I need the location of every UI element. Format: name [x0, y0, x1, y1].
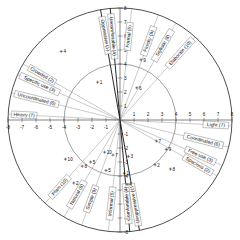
point-marker-label-1: 4: [63, 49, 66, 54]
point-marker-label-8: 8: [173, 167, 176, 172]
point-marker-7: 2: [154, 163, 161, 168]
pole-label-text-light: Light (7): [207, 122, 226, 128]
point-marker-14: 10: [103, 150, 112, 155]
axis-tick-label-v-2: 2: [124, 90, 127, 95]
axis-tick-label-h--5: -5: [48, 125, 53, 130]
axis-tick-label-v-1: 1: [124, 104, 127, 109]
axis-tick-label-h-6: 6: [203, 112, 206, 117]
axis-tick-label-h-2: 2: [147, 112, 150, 117]
semantic-differential-chart: -8-7-6-5-4-3-2-11234567887654321-1-2-3-4…: [0, 0, 240, 240]
point-marker-label-4: 6: [139, 86, 142, 91]
point-marker-label-2: 1: [100, 80, 103, 85]
polar-diagram-canvas: -8-7-6-5-4-3-2-11234567887654321-1-2-3-4…: [0, 0, 240, 240]
point-marker-label-12: 5: [108, 168, 111, 173]
point-marker-8: 8: [169, 167, 176, 172]
point-marker-label-13: 7: [115, 153, 118, 158]
pole-label-plain: Plain (10): [48, 174, 72, 199]
point-marker-11: 3: [127, 154, 134, 159]
pole-label-elaborate: Elaborate (10): [165, 37, 195, 70]
point-marker-3: 9: [140, 58, 147, 63]
point-marker-label-14: 10: [107, 150, 113, 155]
axis-tick-label-h--3: -3: [76, 125, 81, 130]
point-marker-label-3: 9: [143, 58, 146, 63]
point-marker-label-6: 9: [168, 147, 171, 152]
pole-label-light: Light (7): [203, 121, 229, 129]
point-marker-2: 1: [96, 80, 103, 85]
point-marker-17: 10: [64, 157, 73, 162]
pole-label-coordinated: Coordinated (6): [183, 133, 224, 149]
axis-tick-label-v--8: -8: [124, 230, 129, 235]
point-marker-18: 2: [72, 181, 79, 186]
point-marker-5: 7: [155, 139, 162, 144]
axis-tick-label-h--8: -8: [6, 125, 11, 130]
pole-label-informal: Informal (5): [106, 187, 116, 220]
point-marker-label-5: 7: [159, 139, 162, 144]
axis-tick-label-h-3: 3: [161, 112, 164, 117]
point-marker-6: 9: [165, 147, 172, 152]
axis-tick-label-h--7: -7: [20, 125, 25, 130]
axis-tick-label-h-7: 7: [217, 112, 220, 117]
axis-tick-label-h-5: 5: [189, 112, 192, 117]
axis-tick-label-h-4: 4: [175, 112, 178, 117]
axis-tick-label-h--4: -4: [62, 125, 67, 130]
axis-tick-label-v-8: 8: [124, 6, 127, 11]
axis-tick-label-h-1: 1: [133, 112, 136, 117]
point-marker-15: 5: [89, 160, 96, 165]
axis-tick-label-v--1: -1: [124, 132, 129, 137]
point-marker-label-9: 4: [129, 182, 132, 187]
pole-label-text-elaborate: Elaborate (10): [168, 40, 193, 67]
point-marker-1: 4: [60, 49, 67, 54]
point-marker-label-15: 5: [93, 160, 96, 165]
axis-tick-label-h-8: 8: [231, 112, 234, 117]
axis-tick-label-h--1: -1: [104, 125, 109, 130]
pole-label-finicky: Finicky (9): [140, 26, 157, 57]
point-marker-label-17: 10: [68, 157, 74, 162]
axis-tick-label-v-3: 3: [124, 76, 127, 81]
pole-label-simple: Simple (9): [83, 185, 99, 214]
point-marker-label-16: 8: [84, 164, 87, 169]
pole-label-formal: Formal (5): [124, 22, 133, 51]
pole-label-heavy: Heavy (7): [11, 111, 37, 119]
point-marker-13: 7: [112, 153, 119, 158]
point-marker-label-18: 2: [76, 181, 79, 186]
axis-tick-label-v-4: 4: [124, 62, 127, 67]
point-marker-4: 6: [135, 86, 142, 91]
point-marker-label-10: 1: [126, 171, 129, 176]
axis-tick-label-h--2: -2: [90, 125, 95, 130]
pole-label-text-plain: Plain (10): [51, 177, 69, 196]
pole-label-text-stylistic: Stylistic (8): [155, 34, 171, 58]
pole-label-text-natural: Natural (8): [69, 183, 85, 206]
point-marker-label-11: 3: [131, 154, 134, 159]
axis-tick-label-h--6: -6: [34, 125, 39, 130]
point-marker-12: 5: [105, 168, 112, 173]
point-marker-label-7: 2: [157, 163, 160, 168]
point-marker-16: 8: [81, 164, 88, 169]
axis-tick-label-v--3: -3: [124, 160, 129, 165]
axis-tick-label-v--2: -2: [124, 146, 129, 151]
